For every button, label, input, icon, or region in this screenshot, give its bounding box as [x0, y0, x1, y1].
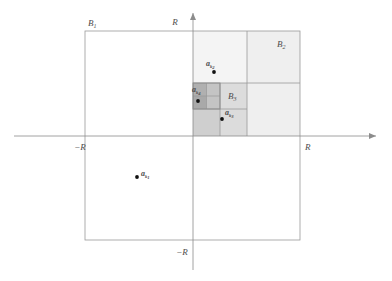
region-label-B1: B1 [88, 18, 97, 29]
point-marker-ak3 [220, 117, 224, 121]
point-marker-ak1 [135, 175, 139, 179]
region-nested-square-level5-lower [193, 96, 207, 109]
region-quadrant-upper-left-shading [193, 31, 247, 83]
x-axis-left-label: −R [74, 142, 86, 152]
y-axis-bottom-label: −R [176, 247, 188, 257]
x-axis-arrow-icon [369, 133, 376, 139]
point-marker-ak2 [212, 70, 216, 74]
x-axis-right-label: R [304, 142, 311, 152]
y-axis-top-label: R [171, 17, 178, 27]
y-axis-arrow-icon [190, 13, 196, 20]
geometric-diagram-canvas: R R −R −R B1 B2 B3 ak1 ak2 ak3 [0, 0, 392, 281]
point-label-ak1: ak1 [141, 169, 150, 180]
figure-container: R R −R −R B1 B2 B3 ak1 ak2 ak3 [0, 0, 392, 281]
region-B3-lower-left-shading [193, 109, 220, 136]
point-marker-ak4 [196, 99, 200, 103]
